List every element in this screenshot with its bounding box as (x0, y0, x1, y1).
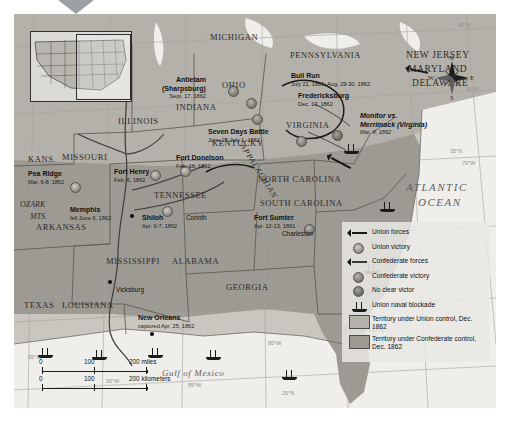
battle-name-monitor: Monitor vs. (360, 112, 427, 121)
battle-name-memphis: Memphis (70, 206, 111, 215)
battle-name-fort-sumter: Fort Sumter (254, 214, 295, 223)
battle-marker-bull-run[interactable] (246, 98, 257, 109)
battle-date-new-orleans: captured Apr. 25, 1862 (138, 323, 194, 330)
compass-label-west: W (428, 74, 434, 81)
battle-date-fort-sumter: Apr. 12-13, 1861 (254, 223, 295, 230)
battle-marker-fredericksburg[interactable] (252, 114, 263, 125)
battle-name-new-orleans: New Orleans (138, 314, 194, 323)
map-legend: Union forces Union victory Confederate f… (342, 222, 490, 362)
graticule-45n: 45°N (458, 22, 470, 28)
city-marker-memphis[interactable] (130, 214, 134, 218)
legend-item-confederate-territory: Territory under Confederate control, Dec… (348, 335, 484, 351)
battle-label-new-orleans: New Orleans captured Apr. 25, 1862 (138, 314, 194, 330)
battle-date-memphis: fell June 6, 1862 (70, 215, 111, 222)
legend-label-union-territory: Territory under Union control, Dec. 1862 (372, 315, 484, 331)
battle-marker-seven-days[interactable] (296, 136, 307, 147)
battle-marker-monitor-merrimack[interactable] (332, 130, 343, 141)
scale-miles-zero: 0 (39, 358, 43, 365)
scale-miles-end: 200 miles (129, 358, 156, 365)
legend-label-naval-blockade: Union naval blockade (372, 300, 435, 309)
battle-date-seven-days: June 25-July 1, 1862 (208, 137, 269, 144)
city-marker-new-orleans[interactable] (150, 332, 154, 336)
range-label-ozark-mts: MTS. (30, 212, 47, 221)
legend-item-confederate-victory: Confederate victory (348, 271, 484, 282)
state-label-louisiana: LOUISIANA (62, 300, 114, 310)
blockade-ship-icon (148, 346, 163, 358)
state-label-virginia: VIRGINIA (286, 120, 330, 130)
battle-name-fort-donelson: Fort Donelson (176, 154, 223, 163)
graticule-35n: 35°N (450, 148, 462, 154)
battle-marker-pea-ridge[interactable] (70, 182, 81, 193)
battle-label-fort-henry: Fort Henry Feb. 6, 1862 (114, 168, 149, 184)
union-naval-blockade-ship-icon (348, 300, 372, 311)
confederate-forces-arrow-icon (348, 256, 372, 267)
scale-bars: 0 100 200 miles 0 100 200 kilometers (36, 362, 176, 396)
legend-item-no-clear-victor: No clear victor (348, 285, 484, 296)
battle-label-antietam: Antietam (Sharpsburg) Sept. 17, 1862 (162, 76, 206, 100)
state-label-arkansas: ARKANSAS (36, 222, 87, 232)
battle-label-memphis: Memphis fell June 6, 1862 (70, 206, 111, 222)
battle-name-antietam-alt: (Sharpsburg) (162, 85, 206, 94)
blockade-ship-icon (282, 368, 297, 380)
state-label-georgia: GEORGIA (226, 282, 268, 292)
graticule-25n: 25°N (282, 390, 294, 396)
state-label-indiana: INDIANA (176, 102, 217, 112)
scale-miles-mid: 100 (84, 358, 95, 365)
battle-label-seven-days: Seven Days Battle June 25-July 1, 1862 (208, 128, 269, 144)
civil-war-map: MICHIGAN PENNSYLVANIA NEW JERSEY MARYLAN… (14, 14, 496, 408)
ocean-label-ocean: OCEAN (418, 195, 462, 210)
state-label-pennsylvania: PENNSYLVANIA (290, 50, 361, 60)
battle-date-antietam: Sept. 17, 1862 (162, 93, 206, 100)
state-label-kansas: KANS. (28, 154, 56, 164)
legend-label-confederate-territory: Territory under Confederate control, Dec… (372, 335, 484, 351)
state-label-michigan: MICHIGAN (210, 32, 258, 42)
legend-item-union-territory: Territory under Union control, Dec. 1862 (348, 315, 484, 331)
legend-label-confederate-victory: Confederate victory (372, 271, 429, 280)
battle-marker-antietam[interactable] (228, 86, 239, 97)
legend-label-no-clear-victor: No clear victor (372, 285, 414, 294)
inset-locator-map (30, 31, 132, 102)
battle-name-fort-henry: Fort Henry (114, 168, 149, 177)
union-forces-arrow-icon (348, 227, 372, 238)
compass-label-east: E (470, 74, 474, 81)
union-territory-swatch-icon (348, 315, 372, 326)
state-label-alabama: ALABAMA (172, 256, 219, 266)
scale-bar-kilometers: 0 100 200 kilometers (36, 379, 176, 396)
battle-date-fort-donelson: Feb. 16, 1862 (176, 163, 223, 170)
battle-label-fredericksburg: Fredericksburg Dec. 13, 1862 (298, 92, 349, 108)
confederate-territory-swatch-icon (348, 335, 372, 346)
battle-name-bull-run: Bull Run (291, 72, 370, 81)
range-label-appalachian: APPALACHIAN (238, 142, 279, 200)
scale-km-end: 200 kilometers (129, 375, 171, 382)
blockade-ship-icon (344, 142, 359, 154)
page-marker-arrow (58, 0, 94, 14)
battle-name-fredericksburg: Fredericksburg (298, 92, 349, 101)
battle-label-shiloh: Shiloh Apr. 6-7, 1862 (142, 214, 177, 230)
battle-label-pea-ridge: Pea Ridge Mar. 6-8, 1862 (28, 170, 64, 186)
battle-date-shiloh: Apr. 6-7, 1862 (142, 223, 177, 230)
city-label-corinth: Corinth (186, 214, 207, 221)
battle-label-fort-donelson: Fort Donelson Feb. 16, 1862 (176, 154, 223, 170)
state-label-tennessee: TENNESSEE (154, 190, 207, 200)
blockade-ship-icon (206, 348, 221, 360)
battle-date-fort-henry: Feb. 6, 1862 (114, 177, 149, 184)
blockade-ship-icon (380, 200, 395, 212)
battle-name-pea-ridge: Pea Ridge (28, 170, 64, 179)
city-marker-vicksburg[interactable] (108, 280, 112, 284)
state-label-illinois: ILLINOIS (118, 116, 159, 126)
city-label-charleston: Charleston (282, 230, 313, 237)
battle-marker-fort-henry[interactable] (150, 170, 161, 181)
city-label-vicksburg: Vicksburg (116, 286, 144, 293)
inset-highlight-region (76, 34, 131, 100)
battle-name-shiloh: Shiloh (142, 214, 177, 223)
legend-label-confederate-forces: Confederate forces (372, 256, 428, 265)
legend-item-naval-blockade: Union naval blockade (348, 300, 484, 311)
graticule-70w: 70°W (462, 160, 475, 166)
battle-label-monitor-merrimack: Monitor vs. Merrimack (Virginia) Mar. 9,… (360, 112, 427, 136)
battle-label-fort-sumter: Fort Sumter Apr. 12-13, 1861 (254, 214, 295, 230)
battle-name-seven-days: Seven Days Battle (208, 128, 269, 137)
no-clear-victor-marker-icon (348, 285, 372, 296)
state-label-mississippi: MISSISSIPPI (106, 256, 160, 266)
scale-km-mid: 100 (84, 375, 95, 382)
compass-label-south: S (450, 94, 454, 101)
